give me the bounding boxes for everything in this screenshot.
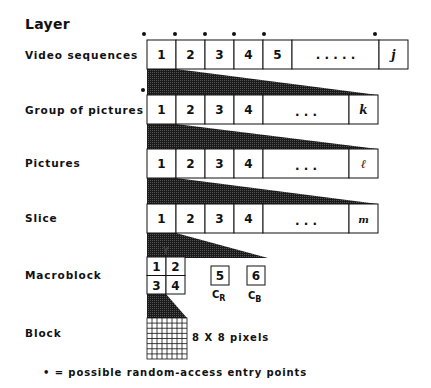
row-slice [147, 204, 378, 233]
svg-text:1: 1 [157, 212, 165, 226]
svg-text:3: 3 [215, 48, 223, 62]
chroma-cb-label: CB [248, 290, 261, 304]
svg-text:2: 2 [171, 260, 179, 274]
svg-text:m: m [358, 214, 369, 225]
block-size-label: 8 X 8 pixels [192, 332, 269, 343]
svg-text:3: 3 [215, 212, 223, 226]
svg-text:3: 3 [215, 103, 223, 117]
svg-text:4: 4 [244, 103, 252, 117]
svg-text:k: k [359, 103, 367, 117]
legend-entry-points: • = possible random-access entry points [43, 367, 307, 378]
svg-text:2: 2 [186, 157, 194, 171]
svg-text:. . .: . . . [295, 159, 317, 173]
svg-text:j: j [389, 48, 396, 62]
wedge-pic-to-slice [147, 178, 378, 204]
svg-text:4: 4 [244, 212, 252, 226]
wedge-gop-to-pic [147, 124, 378, 149]
svg-text:. . . . .: . . . . . [316, 48, 356, 62]
svg-text:3: 3 [215, 157, 223, 171]
svg-text:6: 6 [252, 269, 260, 283]
row-pictures [147, 149, 378, 178]
chroma-cr-label: CR [212, 289, 226, 303]
svg-text:2: 2 [186, 48, 194, 62]
svg-text:2: 2 [186, 103, 194, 117]
svg-text:3: 3 [152, 279, 160, 293]
svg-text:4: 4 [244, 48, 252, 62]
svg-text:1: 1 [152, 260, 160, 274]
svg-text:5: 5 [216, 269, 224, 283]
svg-text:1: 1 [157, 103, 165, 117]
svg-text:2: 2 [186, 212, 194, 226]
svg-text:. . .: . . . [295, 105, 317, 119]
svg-text:5: 5 [273, 48, 281, 62]
svg-text:4: 4 [171, 279, 179, 293]
svg-text:4: 4 [244, 157, 252, 171]
row-group-of-pictures [147, 95, 378, 124]
block-8x8-grid [147, 318, 187, 359]
svg-text:1: 1 [157, 48, 165, 62]
svg-text:. . .: . . . [295, 214, 317, 228]
wedge-mb-to-block [147, 294, 187, 318]
wedge-seq-to-gop [147, 69, 378, 95]
svg-text:1: 1 [157, 157, 165, 171]
luma-y-label: Y [162, 247, 169, 256]
svg-text:ℓ: ℓ [361, 157, 366, 171]
mpeg-hierarchy-diagram: 1 2 3 4 5 . . . . . j 1 2 3 4 . . . k 1 … [0, 0, 431, 388]
